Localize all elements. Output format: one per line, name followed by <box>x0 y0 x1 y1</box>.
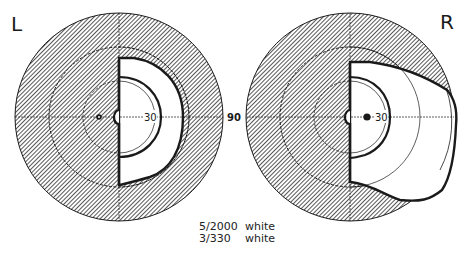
right-eye-label: R <box>440 10 454 34</box>
legend-color: white <box>245 233 275 245</box>
ring-label-30-left: 30 <box>144 112 157 123</box>
stimulus-legend: 5/2000 white 3/330 white <box>199 221 275 245</box>
legend-row: 3/330 white <box>199 233 275 245</box>
right-eye-field <box>226 13 456 221</box>
ring-label-30-right: 30 <box>375 112 388 123</box>
left-eye-field <box>15 13 223 221</box>
left-eye-label: L <box>11 12 22 36</box>
legend-stimulus: 3/330 <box>199 233 239 245</box>
blind-spot-right <box>363 113 370 120</box>
ring-label-90: 90 <box>227 112 241 123</box>
